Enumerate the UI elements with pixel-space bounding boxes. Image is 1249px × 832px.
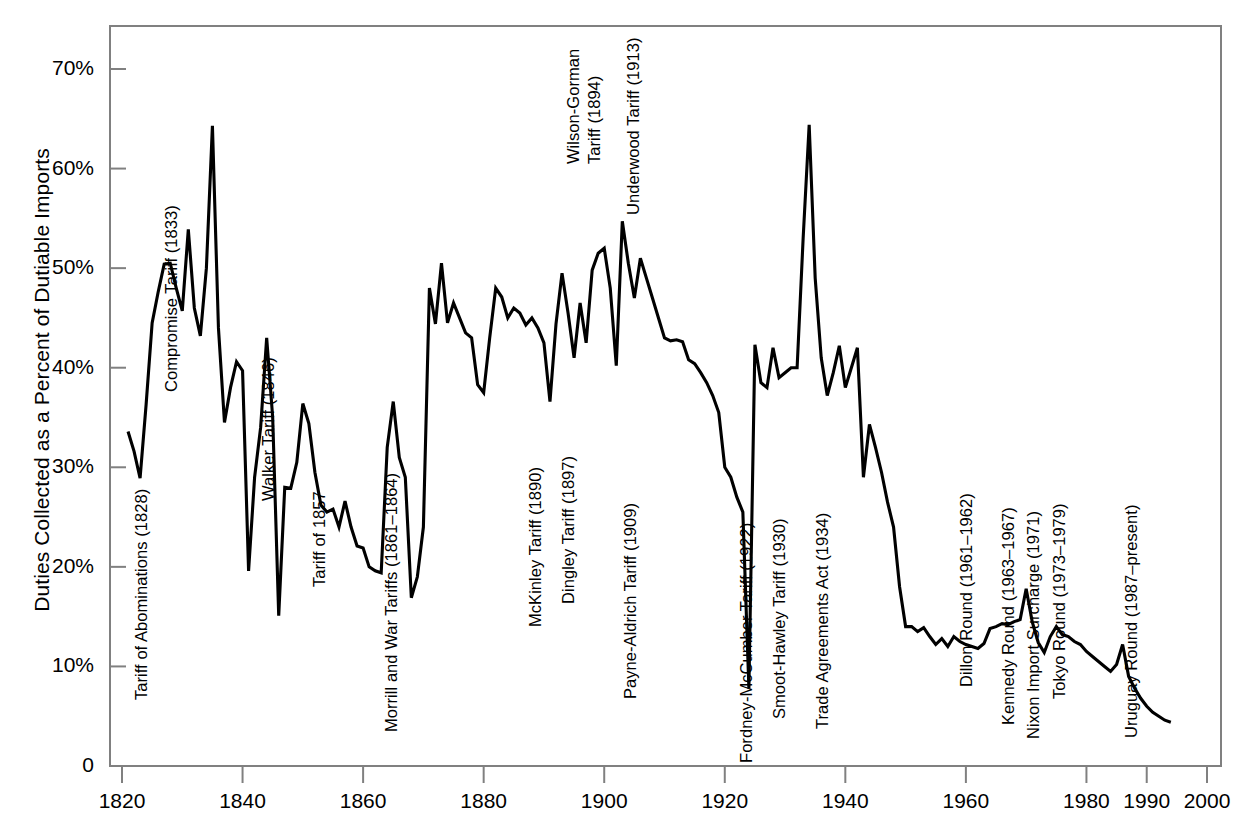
chart-annotation: Wilson-Gorman <box>564 49 583 164</box>
y-tick-label: 10% <box>14 653 94 677</box>
chart-annotation: Tariff of 1857 <box>310 491 329 587</box>
chart-annotation: Smoot-Hawley Tariff (1930) <box>770 518 789 719</box>
x-tick-label: 1840 <box>198 789 288 813</box>
chart-annotation: Tariff (1894) <box>585 76 604 164</box>
x-tick-label: 1820 <box>77 789 167 813</box>
tariff-history-chart: Duties Collected as a Percent of Dutiabl… <box>0 0 1249 832</box>
chart-annotation: Dillon Round (1961–1962) <box>957 493 976 687</box>
x-tick-label: 1940 <box>800 789 890 813</box>
chart-annotation: Trade Agreements Act (1934) <box>813 513 832 729</box>
chart-annotation: Payne-Aldrich Tariff (1909) <box>621 503 640 699</box>
chart-annotation: Tariff of Abominations (1828) <box>132 489 151 700</box>
y-tick-label: 40% <box>14 355 94 379</box>
chart-annotation: Walker Tariff (1846) <box>259 357 278 501</box>
chart-annotation: Fordney-McCumber Tariff (1922) <box>737 523 756 763</box>
chart-annotation: Underwood Tariff (1913) <box>624 37 643 215</box>
chart-annotation: Kennedy Round (1963–1967) <box>999 507 1018 725</box>
y-tick-label: 20% <box>14 554 94 578</box>
y-tick-label: 30% <box>14 454 94 478</box>
chart-annotation: Nixon Import Surcharge (1971) <box>1024 511 1043 739</box>
x-tick-label: 1960 <box>921 789 1011 813</box>
chart-annotation: Morrill and War Tariffs (1861–1864) <box>382 473 401 732</box>
x-tick-label: 1920 <box>680 789 770 813</box>
y-tick-label: 0 <box>14 753 94 777</box>
chart-annotation: Tokyo Round (1973–1979) <box>1050 503 1069 699</box>
chart-annotation: Uruguay Round (1987–present) <box>1122 505 1141 738</box>
chart-annotation: Compromise Tariff (1833) <box>162 205 181 392</box>
chart-annotation: McKinley Tariff (1890) <box>526 467 545 627</box>
x-tick-label: 1860 <box>318 789 408 813</box>
chart-annotation: Dingley Tariff (1897) <box>559 456 578 604</box>
y-tick-label: 60% <box>14 156 94 180</box>
x-tick-label: 2000 <box>1162 789 1249 813</box>
x-tick-label: 1900 <box>559 789 649 813</box>
y-tick-label: 50% <box>14 255 94 279</box>
y-tick-label: 70% <box>14 56 94 80</box>
x-tick-label: 1880 <box>439 789 529 813</box>
